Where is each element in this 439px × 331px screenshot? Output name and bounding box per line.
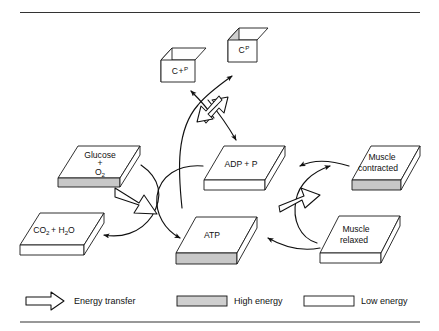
flow-relaxed-to-atp: [268, 238, 320, 249]
energy-transfer-contraction: [279, 188, 320, 212]
legend-item-energy-transfer: Energy transfer: [26, 292, 136, 310]
energy-transfer-diagram: C+P CP Glucose + O2: [0, 0, 439, 331]
muscle-contracted-label-line1: Muscle: [368, 152, 395, 162]
node-muscle-contracted: Muscle contracted: [352, 146, 420, 190]
glucose-front-edge-high-energy: [58, 178, 120, 187]
atp-label: ATP: [204, 230, 220, 240]
muscle-relaxed-label-line2: relaxed: [340, 235, 368, 245]
legend-label-energy-transfer: Energy transfer: [74, 296, 136, 306]
co2-label: CO2+ H2O: [33, 225, 75, 236]
adp-front-edge-low-energy: [204, 180, 265, 190]
node-glucose-o2: Glucose + O2: [58, 146, 140, 187]
node-cp: CP: [228, 28, 268, 62]
flow-contracted-to-adp: [300, 162, 349, 167]
legend-label-high-energy: High energy: [234, 296, 283, 306]
adp-label: ADP + P: [224, 159, 257, 169]
legend-label-low-energy: Low energy: [361, 296, 408, 306]
legend: Energy transfer High energy Low energy: [26, 292, 408, 310]
node-muscle-relaxed: Muscle relaxed: [320, 216, 400, 263]
flow-relaxed-to-contracted: [295, 166, 330, 243]
muscle-contracted-front-edge-high-energy: [352, 180, 401, 190]
co2-front-edge-low-energy: [20, 245, 84, 255]
energy-transfer-swatch-icon: [26, 292, 64, 310]
node-co2-h2o: CO2+ H2O: [20, 213, 104, 255]
low-energy-swatch-icon: [304, 296, 354, 306]
energy-transfer-glycolysis: [115, 188, 157, 214]
high-energy-swatch-icon: [177, 296, 227, 306]
muscle-relaxed-label-line1: Muscle: [342, 224, 369, 234]
node-c-plus-p: C+P: [161, 48, 206, 82]
node-atp: ATP: [176, 217, 257, 264]
muscle-relaxed-front-edge-low-energy: [320, 253, 381, 263]
atp-front-edge-high-energy: [176, 253, 237, 264]
legend-item-low-energy: Low energy: [304, 296, 408, 306]
legend-item-high-energy: High energy: [177, 296, 283, 306]
node-adp-p: ADP + P: [204, 146, 285, 190]
muscle-contracted-label-line2: contracted: [358, 163, 398, 173]
figure-page: C+P CP Glucose + O2: [0, 0, 439, 331]
